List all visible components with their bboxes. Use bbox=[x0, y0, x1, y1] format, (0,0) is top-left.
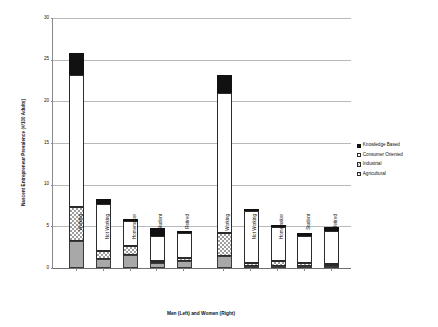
y-tick-mark-15 bbox=[51, 143, 54, 144]
legend-swatch-icon-cons bbox=[357, 153, 361, 157]
y-tick-mark-0 bbox=[51, 268, 54, 269]
x-axis-label-women-working: Working bbox=[225, 214, 230, 274]
legend-label: Consumer Oriented bbox=[363, 153, 403, 158]
gridline-10 bbox=[53, 185, 351, 186]
legend-swatch-icon-agri bbox=[357, 172, 361, 176]
x-tick-mark-9 bbox=[331, 268, 332, 271]
x-axis-label-men-working: Working bbox=[78, 214, 83, 274]
y-tick-label-5: 5 bbox=[35, 224, 49, 229]
x-axis-label-women-homemaker: Homemaker bbox=[279, 214, 284, 274]
x-axis-label-men-retired: Retired bbox=[185, 214, 190, 274]
y-tick-label-20: 20 bbox=[35, 99, 49, 104]
x-axis-title: Men (Left) and Women (Right) bbox=[52, 311, 350, 316]
bar-segment-knowledge-based bbox=[217, 75, 232, 93]
legend-label: Industrial bbox=[363, 162, 382, 167]
y-tick-mark-5 bbox=[51, 226, 54, 227]
gridline-25 bbox=[53, 60, 351, 61]
x-axis-label-women-student: Student bbox=[306, 214, 311, 274]
y-tick-label-0: 0 bbox=[35, 266, 49, 271]
y-tick-label-15: 15 bbox=[35, 141, 49, 146]
legend-item-consumer-oriented[interactable]: Consumer Oriented bbox=[357, 150, 403, 159]
chart-legend: Knowledge BasedConsumer OrientedIndustri… bbox=[357, 141, 403, 179]
y-tick-label-10: 10 bbox=[35, 182, 49, 187]
bar-segment-consumer-oriented bbox=[217, 93, 232, 233]
x-tick-mark-0 bbox=[76, 268, 77, 271]
x-axis-label-women-not-working: Not Working bbox=[252, 214, 257, 274]
x-tick-mark-2 bbox=[130, 268, 131, 271]
x-axis-label-men-student: Student bbox=[158, 214, 163, 274]
legend-swatch-icon-know bbox=[357, 144, 361, 148]
x-axis-label-women-retired: Retired bbox=[333, 214, 338, 274]
y-tick-label-25: 25 bbox=[35, 57, 49, 62]
x-tick-mark-4 bbox=[183, 268, 184, 271]
x-axis-label-men-not-working: Not Working bbox=[105, 214, 110, 274]
gridline-20 bbox=[53, 101, 351, 102]
x-axis-label-men-homemaker: Homemaker bbox=[132, 214, 137, 274]
stacked-bar-chart: Nascent Entrepreneur Prevalence (#/100 A… bbox=[0, 0, 438, 327]
y-axis-title: Nascent Entrepreneur Prevalence (#/100 A… bbox=[21, 68, 26, 238]
y-tick-mark-10 bbox=[51, 185, 54, 186]
x-tick-mark-7 bbox=[277, 268, 278, 271]
legend-swatch-icon-ind bbox=[357, 162, 361, 166]
y-tick-mark-25 bbox=[51, 60, 54, 61]
x-tick-mark-1 bbox=[103, 268, 104, 271]
x-tick-mark-8 bbox=[304, 268, 305, 271]
legend-item-industrial[interactable]: Industrial bbox=[357, 160, 403, 169]
legend-item-agricultural[interactable]: Agricultural bbox=[357, 169, 403, 178]
y-tick-label-30: 30 bbox=[35, 16, 49, 21]
legend-item-knowledge-based[interactable]: Knowledge Based bbox=[357, 141, 403, 150]
bar-segment-consumer-oriented bbox=[69, 75, 84, 208]
y-tick-mark-20 bbox=[51, 101, 54, 102]
y-tick-mark-30 bbox=[51, 18, 54, 19]
bar-segment-knowledge-based bbox=[69, 53, 84, 75]
gridline-15 bbox=[53, 143, 351, 144]
gridline-30 bbox=[53, 18, 351, 19]
legend-label: Agricultural bbox=[363, 172, 386, 177]
legend-label: Knowledge Based bbox=[363, 143, 400, 148]
